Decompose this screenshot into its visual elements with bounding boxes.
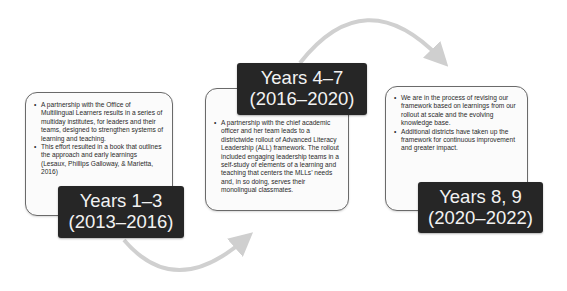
stage-2-bullet-1: A partnership with the chief academic of…: [214, 119, 340, 195]
arrow-stage2-to-stage3: [300, 20, 440, 63]
stage-3-label: Years 8, 9 (2020–2022): [418, 182, 543, 233]
arrow-stage1-to-stage2: [124, 240, 244, 270]
stage-3-years: Years 8, 9: [418, 186, 543, 207]
stage-1-years: Years 1–3: [58, 190, 184, 211]
stage-1-dates: (2013–2016): [58, 211, 184, 232]
stage-1-bullet-1: A partnership with the Office of Multili…: [34, 101, 164, 143]
stage-1-label: Years 1–3 (2013–2016): [58, 186, 184, 238]
stage-2-dates: (2016–2020): [237, 88, 367, 109]
stage-3-bullet-1: We are in the process of revising our fr…: [394, 94, 519, 128]
stage-1-bullet-2: This effort resulted in a book that outl…: [34, 143, 164, 177]
stage-2-years: Years 4–7: [237, 67, 367, 88]
stage-3-dates: (2020–2022): [418, 207, 543, 228]
stage-2-label: Years 4–7 (2016–2020): [237, 63, 367, 115]
stage-3-bullet-2: Additional districts have taken up the f…: [394, 128, 519, 153]
